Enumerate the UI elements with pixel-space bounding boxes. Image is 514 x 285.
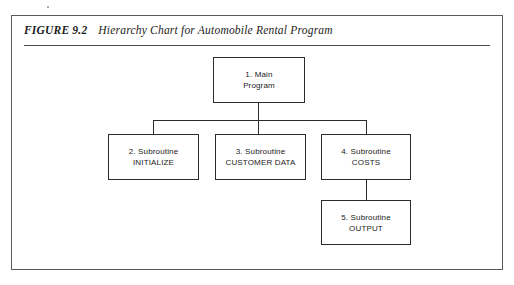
figure-page: FIGURE 9.2Hierarchy Chart for Automobile… [0, 0, 514, 285]
figure-frame [11, 15, 503, 270]
figure-caption: FIGURE 9.2Hierarchy Chart for Automobile… [24, 24, 474, 40]
figure-title: Hierarchy Chart for Automobile Rental Pr… [98, 24, 332, 36]
caption-rule [24, 45, 490, 46]
scan-speck [47, 6, 49, 8]
figure-label: FIGURE 9.2 [24, 24, 87, 36]
